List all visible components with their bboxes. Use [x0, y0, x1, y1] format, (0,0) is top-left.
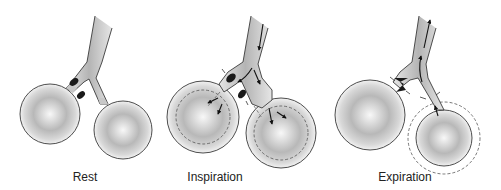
airway-expiration	[393, 16, 444, 110]
label-inspiration: Inspiration	[180, 170, 250, 184]
label-rest: Rest	[60, 170, 110, 184]
label-expiration: Expiration	[370, 170, 440, 184]
alveolus-left-expiration	[335, 80, 405, 150]
alveolus-left-inspiration	[167, 81, 239, 153]
panel-expiration	[335, 16, 480, 174]
alveoli-diagram	[0, 0, 501, 190]
alveolus-right-inspiration	[246, 98, 316, 168]
obstruction-icon	[76, 90, 87, 100]
panel-inspiration	[167, 16, 316, 168]
alveolus-right-expiration	[416, 110, 472, 166]
alveolus-left-rest	[20, 84, 80, 144]
panel-rest	[20, 16, 152, 159]
alveolus-right-rest	[94, 101, 152, 159]
